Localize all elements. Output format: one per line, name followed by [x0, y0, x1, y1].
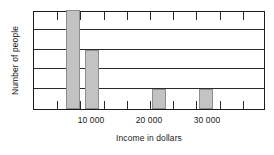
x-axis-tick	[80, 12, 81, 20]
x-axis-tick	[243, 12, 244, 20]
y-axis-title: Number of people	[8, 5, 22, 116]
histogram-bar	[66, 10, 80, 109]
x-axis-tick-label: 30 000	[194, 115, 221, 125]
x-axis-tick	[104, 12, 105, 20]
x-axis-tick	[127, 101, 128, 109]
x-axis-tick	[220, 101, 221, 109]
x-axis-title: Income in dollars	[33, 133, 265, 143]
x-axis-tick	[57, 101, 58, 109]
histogram-bar	[85, 50, 99, 109]
x-axis-tick	[150, 101, 151, 109]
x-axis-tick	[80, 101, 81, 109]
x-axis-tick	[220, 12, 221, 20]
x-axis-tick	[173, 101, 174, 109]
x-axis-tick	[243, 101, 244, 109]
x-axis-tick	[196, 12, 197, 20]
x-axis-tick	[127, 12, 128, 20]
x-axis-tick	[104, 101, 105, 109]
x-axis-tick	[150, 12, 151, 20]
plot-inner	[34, 12, 264, 109]
histogram-bar	[199, 89, 213, 109]
histogram-screenshot: Number of people 10 00020 00030 000 Inco…	[0, 0, 274, 155]
x-axis-tick	[196, 101, 197, 109]
x-axis-tick-label: 20 000	[136, 115, 163, 125]
x-axis-tick	[57, 12, 58, 20]
x-axis-tick	[173, 12, 174, 20]
histogram-bar	[152, 89, 166, 109]
plot-area	[33, 11, 265, 110]
x-axis-tick-label: 10 000	[78, 115, 105, 125]
